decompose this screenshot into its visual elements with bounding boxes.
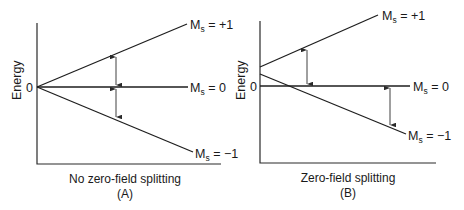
- zero-field-splitting-figure: Energy 0 Ms = +1 Ms = 0 Ms = −1 No zero-…: [0, 0, 464, 210]
- panel-a-caption: No zero-field splitting: [69, 172, 181, 186]
- panel-b-level-minus1: [260, 74, 406, 134]
- panel-b-label-minus1: Ms = −1: [408, 129, 451, 145]
- panel-b-energy-label: Energy: [234, 60, 248, 100]
- panel-a-label-plus1: Ms = +1: [190, 18, 233, 34]
- panel-a-label-minus1: Ms = −1: [195, 147, 238, 163]
- panel-b-level-plus1: [260, 15, 378, 67]
- panel-a-level-plus1: [37, 24, 187, 87]
- panel-a-caption-letter: (A): [117, 187, 133, 201]
- panel-a-energy-label: Energy: [10, 60, 24, 100]
- panel-b-caption: Zero-field splitting: [301, 171, 396, 185]
- panel-b-zero-label: 0: [250, 80, 257, 94]
- panel-b-label-plus1: Ms = +1: [382, 9, 425, 25]
- panel-a: Energy 0 Ms = +1 Ms = 0 Ms = −1 No zero-…: [10, 18, 238, 201]
- panel-a-label-0: Ms = 0: [190, 81, 226, 97]
- panel-a-zero-label: 0: [26, 81, 33, 95]
- panel-a-level-minus1: [37, 87, 193, 152]
- panel-b-label-0: Ms = 0: [413, 80, 449, 96]
- panel-b-caption-letter: (B): [340, 186, 356, 200]
- panel-b: Energy 0 Ms = +1 Ms = 0 Ms = −1 Zero-fie…: [234, 9, 451, 200]
